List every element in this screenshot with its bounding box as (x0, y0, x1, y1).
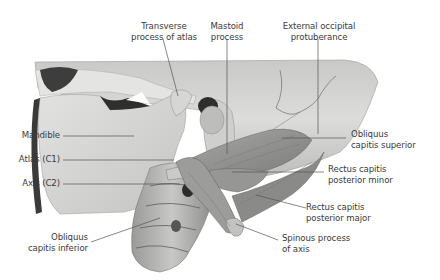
label-line: capitis superior (351, 140, 416, 151)
label-external-occipital-protuberance: External occipital protuberance (278, 21, 360, 43)
label-rectus-capitis-posterior-major: Rectus capitis posterior major (306, 202, 371, 224)
label-transverse-process-atlas: Transverse process of atlas (124, 21, 204, 43)
label-line: process of atlas (124, 32, 204, 43)
label-line: Rectus capitis (328, 164, 393, 175)
label-rectus-capitis-posterior-minor: Rectus capitis posterior minor (328, 164, 393, 186)
label-atlas: Atlas (C1) (10, 154, 60, 165)
label-line: Transverse (124, 21, 204, 32)
label-line: Obliquus (351, 129, 416, 140)
label-mastoid-process: Mastoid process (204, 21, 250, 43)
label-obliquus-capitis-superior: Obliquus capitis superior (351, 129, 416, 151)
label-line: Mastoid (204, 21, 250, 32)
label-spinous-process-axis: Spinous process of axis (282, 233, 350, 255)
label-line: protuberance (278, 32, 360, 43)
label-line: posterior major (306, 213, 371, 224)
label-line: posterior minor (328, 175, 393, 186)
label-line: process (204, 32, 250, 43)
label-mandible: Mandible (10, 130, 60, 141)
label-axis: Axis (C2) (10, 178, 60, 189)
label-line: capitis inferior (20, 243, 88, 254)
label-line: External occipital (278, 21, 360, 32)
label-line: Obliquus (20, 232, 88, 243)
label-line: of axis (282, 244, 350, 255)
label-line: Spinous process (282, 233, 350, 244)
label-obliquus-capitis-inferior: Obliquus capitis inferior (20, 232, 88, 254)
label-line: Rectus capitis (306, 202, 371, 213)
